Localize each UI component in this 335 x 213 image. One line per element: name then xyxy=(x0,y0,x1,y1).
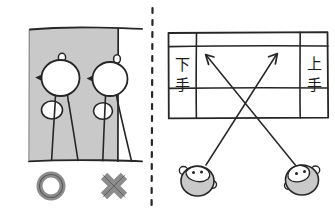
stage-grid-divider-top xyxy=(169,46,328,47)
label-kamite-char-1: 上 xyxy=(307,55,322,73)
label-kamite-char-2: 手 xyxy=(307,76,322,94)
figure-canvas: 下 手 上 手 xyxy=(0,0,335,213)
figure-root: 下 手 上 手 xyxy=(0,0,335,213)
character-head-left-eye-1 xyxy=(192,171,195,174)
character-head-right-eye-1 xyxy=(295,172,298,175)
label-shimote-char-2: 手 xyxy=(175,76,190,94)
figure-incorrect-neck-right xyxy=(117,96,118,103)
stage-grid-divider-bottom xyxy=(169,88,328,89)
character-head-left-eye-2 xyxy=(200,171,203,174)
figure-correct-neck-right xyxy=(68,95,69,102)
character-head-right xyxy=(285,165,320,195)
label-shimote-char-1: 下 xyxy=(175,56,190,74)
panel-divider xyxy=(152,8,153,205)
character-head-right-eye-2 xyxy=(303,170,306,173)
